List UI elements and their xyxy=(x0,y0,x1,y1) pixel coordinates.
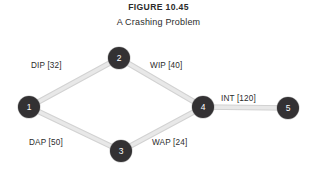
edge-4-5 xyxy=(203,107,288,108)
edge-label-int: INT [120] xyxy=(221,94,256,103)
node-3: 3 xyxy=(110,140,132,162)
edge-label-dip: DIP [32] xyxy=(31,61,62,70)
edge-label-wip: WIP [40] xyxy=(150,61,182,70)
network-diagram-canvas xyxy=(0,0,317,178)
figure-container: FIGURE 10.45 A Crashing Problem 12345 DI… xyxy=(0,0,317,178)
node-1: 1 xyxy=(18,96,40,118)
node-4: 4 xyxy=(192,96,214,118)
node-2: 2 xyxy=(108,47,130,69)
edge-label-wap: WAP [24] xyxy=(152,138,187,147)
edge-label-dap: DAP [50] xyxy=(29,138,63,147)
node-5: 5 xyxy=(277,97,299,119)
